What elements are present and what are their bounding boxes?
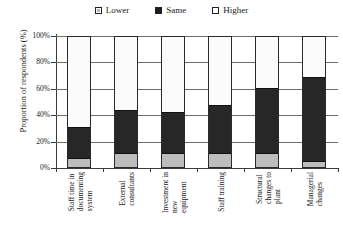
bar-segment-lower xyxy=(162,154,184,167)
x-label-slot-0: Staff time in documenting system xyxy=(56,172,103,236)
x-axis-category-labels: Staff time in documenting system Externa… xyxy=(56,172,339,236)
bar-structural-changes-to-plant[interactable] xyxy=(255,36,279,168)
bar-segment-lower xyxy=(68,159,90,167)
y-tick-label-40: 40% xyxy=(4,111,50,119)
bar-investment-in-new-equipment[interactable] xyxy=(161,36,185,168)
x-axis-label-managerial-changes: Managerial changes xyxy=(306,172,324,206)
x-label-slot-2: Investment in new equipment xyxy=(150,172,197,236)
bar-segment-same xyxy=(162,112,184,154)
bar-segment-same xyxy=(303,77,325,162)
bar-segment-higher xyxy=(209,37,231,105)
bar-staff-training[interactable] xyxy=(208,36,232,168)
x-label-slot-3: Staff training xyxy=(197,172,244,236)
plot-area xyxy=(56,36,338,168)
legend-label-same: Same xyxy=(166,6,186,15)
legend-swatch-lower-icon xyxy=(95,7,102,14)
x-axis-label-investment-in-new-equipment: Investment in new equipment xyxy=(160,172,187,213)
bar-segment-same xyxy=(256,88,278,154)
bar-managerial-changes[interactable] xyxy=(302,36,326,168)
x-axis-label-staff-time-documenting-system: Staff time in documenting system xyxy=(66,172,93,211)
legend-label-higher: Higher xyxy=(223,6,248,15)
bar-segment-same xyxy=(115,110,137,154)
bar-segment-same xyxy=(209,105,231,154)
bar-segment-higher xyxy=(303,37,325,77)
y-axis-tick-labels: 0% 20% 40% 60% 80% 100% xyxy=(0,0,50,237)
bar-segment-lower xyxy=(303,162,325,167)
gridline-80 xyxy=(56,62,338,63)
legend-item-higher: Higher xyxy=(212,6,248,15)
chart-legend: Lower Same Higher xyxy=(0,6,343,15)
bar-segment-higher xyxy=(115,37,137,110)
x-label-slot-1: External consultants xyxy=(103,172,150,236)
legend-label-lower: Lower xyxy=(106,6,130,15)
gridline-40 xyxy=(56,115,338,116)
x-axis-label-staff-training: Staff training xyxy=(216,172,225,212)
y-tick-label-60: 60% xyxy=(4,85,50,93)
legend-item-same: Same xyxy=(155,6,186,15)
bar-staff-time-documenting-system[interactable] xyxy=(67,36,91,168)
gridline-100 xyxy=(56,36,338,37)
bar-segment-higher xyxy=(256,37,278,88)
legend-swatch-same-icon xyxy=(155,7,162,14)
bar-external-consultants[interactable] xyxy=(114,36,138,168)
bar-segment-higher xyxy=(68,37,90,127)
y-tick-label-80: 80% xyxy=(4,59,50,67)
bar-segment-lower xyxy=(115,154,137,167)
bar-segment-same xyxy=(68,127,90,160)
bar-segment-lower xyxy=(256,154,278,167)
gridline-20 xyxy=(56,142,338,143)
gridline-60 xyxy=(56,89,338,90)
bar-segment-lower xyxy=(209,154,231,167)
x-axis-label-external-consultants: External consultants xyxy=(118,172,136,206)
legend-swatch-higher-icon xyxy=(212,7,219,14)
x-axis-label-structural-changes-to-plant: Structural changes to plant xyxy=(254,172,281,204)
x-label-slot-4: Structural changes to plant xyxy=(244,172,291,236)
y-tick-label-0: 0% xyxy=(4,164,50,172)
legend-item-lower: Lower xyxy=(95,6,130,15)
bar-segment-higher xyxy=(162,37,184,112)
y-tick-label-20: 20% xyxy=(4,138,50,146)
y-tick-label-100: 100% xyxy=(4,32,50,40)
x-label-slot-5: Managerial changes xyxy=(291,172,338,236)
